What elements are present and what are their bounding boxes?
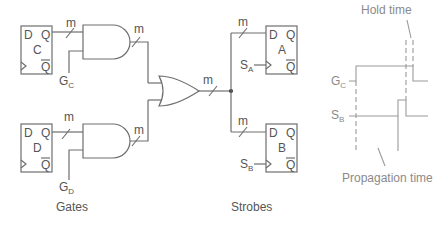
register-name: A xyxy=(278,43,286,57)
strobe-signal-sb: SB xyxy=(240,157,253,173)
q-output-label: Q xyxy=(286,28,295,42)
register-name: B xyxy=(278,141,286,155)
q-bar-label: Q xyxy=(286,158,295,172)
bus-width-label: m xyxy=(134,22,144,36)
gate-signal-gc: GC xyxy=(59,74,74,90)
propagation-time-label: Propagation time xyxy=(342,171,433,185)
bus-width-label: m xyxy=(66,16,76,30)
d-input-label: D xyxy=(24,126,33,140)
timing-gc-label: GC xyxy=(331,74,346,90)
clock-triangle-icon xyxy=(266,160,271,168)
bus-width-label: m xyxy=(238,114,248,128)
clock-triangle-icon xyxy=(266,61,271,69)
strobe-signal-sa: SA xyxy=(240,58,254,74)
q-output-label: Q xyxy=(41,28,50,42)
q-output-label: Q xyxy=(286,126,295,140)
bus-width-label: m xyxy=(64,110,74,124)
or-gate-icon xyxy=(159,76,199,106)
timing-sb-label: SB xyxy=(331,108,344,124)
d-input-label: D xyxy=(269,126,278,140)
register-name: C xyxy=(33,43,42,57)
clock-triangle-icon xyxy=(21,62,26,70)
register-a: D Q A Q xyxy=(266,26,297,74)
clock-triangle-icon xyxy=(21,160,26,168)
hold-time-pointer xyxy=(407,20,411,38)
d-input-label: D xyxy=(269,28,278,42)
d-input-label: D xyxy=(24,28,33,42)
q-output-label: Q xyxy=(41,126,50,140)
gate-signal-gd: GD xyxy=(59,180,74,196)
and-gate-icon xyxy=(83,124,130,158)
q-bar-label: Q xyxy=(41,158,50,172)
bus-slash xyxy=(62,129,70,139)
gates-label: Gates xyxy=(56,200,88,214)
register-b: D Q B Q xyxy=(266,124,297,172)
gc-waveform xyxy=(349,66,428,81)
q-bar-label: Q xyxy=(286,60,295,74)
bus-transfer-diagram: D Q C Q m GC m D Q D Q m GD m Gates m xyxy=(0,0,443,226)
sb-waveform xyxy=(349,100,428,116)
register-c: D Q C Q xyxy=(21,26,52,74)
strobes-label: Strobes xyxy=(231,200,272,214)
propagation-pointer xyxy=(378,148,385,166)
timing-diagram: Hold time GC SB Propagation time xyxy=(331,3,433,185)
bus-width-label: m xyxy=(134,123,144,137)
register-d: D Q D Q xyxy=(21,124,52,172)
q-bar-label: Q xyxy=(41,60,50,74)
hold-time-label: Hold time xyxy=(361,3,412,17)
and-gate-icon xyxy=(83,25,130,59)
bus-width-label: m xyxy=(203,73,213,87)
bus-width-label: m xyxy=(238,15,248,29)
register-name: D xyxy=(33,141,42,155)
